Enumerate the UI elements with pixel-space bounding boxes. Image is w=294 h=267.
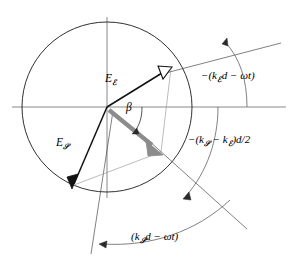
resultant-vector-shaft	[109, 110, 152, 145]
angle-difference-middle: − k	[210, 133, 228, 145]
beta-angle-label: β	[126, 102, 132, 114]
slow-vector-shaft	[74, 107, 107, 184]
beta-angle-arc	[135, 107, 142, 131]
angle-fast-label: −(kℰd − ωt)	[201, 70, 255, 81]
angle-difference-label: −(k𝒮 − kℰ)d/2	[188, 134, 250, 145]
arc-tick-difference	[183, 192, 191, 200]
angle-slow-suffix: d − ωt)	[145, 230, 178, 242]
angle-difference-prefix: −(k	[188, 133, 204, 145]
parallelogram-guide-b	[74, 152, 161, 185]
fast-vector-label-subscript: ℰ	[112, 78, 117, 87]
slow-vector-label: E𝒮	[56, 137, 69, 149]
slow-vector-label-subscript: 𝒮	[63, 142, 69, 151]
angle-fast-subscript: ℰ	[217, 75, 222, 84]
fast-vector-label: Eℰ	[105, 73, 117, 85]
angle-difference-suffix: )d/2	[232, 133, 250, 145]
angle-slow-label: (k𝒮d − ωt)	[131, 231, 178, 242]
parallelogram-guide-a	[161, 68, 171, 152]
radial-line-slow	[91, 111, 113, 254]
radial-line-bisector	[148, 140, 247, 229]
angle-slow-prefix: (k	[131, 230, 140, 242]
angle-slow-subscript: 𝒮	[140, 236, 146, 245]
angle-fast-suffix: d − ωt)	[222, 69, 255, 81]
fast-vector-label-base: E	[105, 72, 112, 84]
angle-fast-prefix: −(k	[201, 69, 217, 81]
arc-tick-fast	[222, 38, 228, 46]
slow-vector-label-base: E	[56, 136, 63, 148]
arc-tick-slow	[99, 241, 107, 248]
angle-difference-subscript-2: ℰ	[228, 139, 233, 148]
phasor-diagram-figure: Eℰ E𝒮 β −(kℰd − ωt) −(k𝒮 − kℰ)d/2 (k𝒮d −…	[0, 0, 294, 267]
resultant-vector-arrowhead	[146, 141, 163, 156]
angle-difference-subscript-1: 𝒮	[204, 139, 210, 148]
